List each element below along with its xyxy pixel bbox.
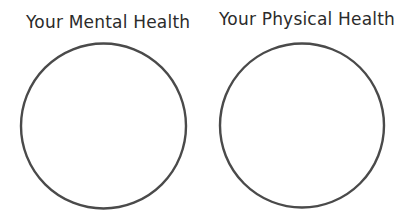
mental-health-circle [21,44,186,209]
circles-canvas [0,0,406,222]
physical-health-circle [220,44,384,208]
